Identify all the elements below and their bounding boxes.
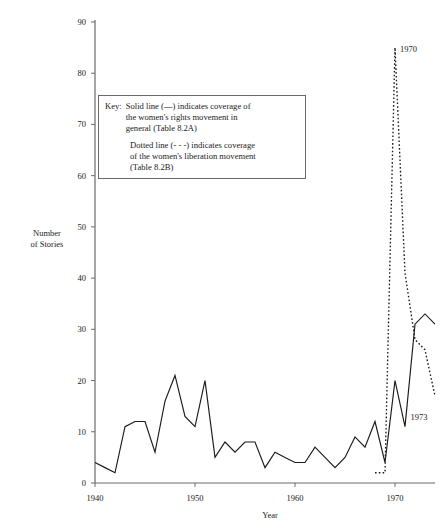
key-line-5: of the women's liberation movement — [130, 151, 256, 161]
y-tick-label: 60 — [78, 171, 87, 181]
key-line-4: Dotted line (- - -) indicates coverage — [130, 140, 255, 150]
key-line-3: general (Table 8.2A) — [126, 123, 197, 133]
number-of-stories-line-chart: 0102030405060708090 1940195019601970 197… — [0, 0, 441, 529]
y-tick-label: 0 — [82, 478, 86, 488]
y-tick-label: 30 — [78, 324, 87, 334]
key-solid-line-description: Solid line (—) indicates coverage of the… — [126, 101, 299, 133]
x-tick-label: 1950 — [187, 493, 204, 503]
y-axis-title-line2: of Stories — [31, 239, 64, 249]
chart-figure: 0102030405060708090 1940195019601970 197… — [0, 0, 441, 529]
x-tick-label: 1960 — [287, 493, 304, 503]
annotation-1973: 1973 — [411, 412, 428, 422]
y-tick-label: 20 — [78, 376, 87, 386]
key-first-paragraph: Key: Solid line (—) indicates coverage o… — [105, 101, 299, 133]
key-line-1: Solid line (—) indicates coverage of — [126, 101, 251, 111]
annotation-peak-1970: 1970 — [400, 44, 417, 54]
key-label: Key: — [105, 101, 126, 112]
key-dotted-line-description: Dotted line (- - -) indicates coverage o… — [105, 140, 299, 172]
y-tick-label: 90 — [78, 17, 87, 27]
y-axis-title-line1: Number — [33, 228, 61, 238]
x-tick-label: 1970 — [387, 493, 404, 503]
y-tick-label: 40 — [78, 273, 87, 283]
x-tick-label: 1940 — [87, 493, 104, 503]
key-line-6: (Table 8.2B) — [130, 162, 173, 172]
y-tick-label: 80 — [78, 68, 87, 78]
key-line-2: the women's rights movement in — [126, 112, 238, 122]
x-axis-title: Year — [262, 510, 278, 520]
y-tick-label: 70 — [78, 119, 87, 129]
y-tick-label: 10 — [78, 427, 87, 437]
y-tick-label: 50 — [78, 222, 87, 232]
chart-key-legend: Key: Solid line (—) indicates coverage o… — [98, 95, 306, 179]
